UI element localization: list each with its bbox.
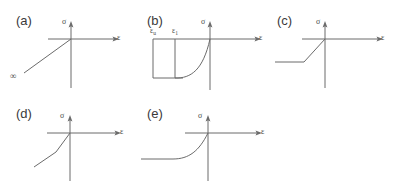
panel-a-label: (a): [16, 14, 32, 27]
panel-b-tick-eu-subscript: u: [153, 30, 156, 36]
panel-a-sigma-label: σ: [62, 18, 66, 26]
panel-c-label: (c): [277, 14, 292, 27]
panel-d-sigma-label: σ: [60, 112, 64, 120]
panel-a-curve: [24, 39, 71, 73]
panel-b: (b) σ ε εu ε1: [133, 0, 278, 95]
panel-b-tick-e1: ε1: [172, 27, 178, 35]
panel-e-epsilon-label: ε: [261, 128, 264, 136]
panel-b-rising-curve: [175, 39, 210, 78]
panel-c-epsilon-label: ε: [381, 34, 384, 42]
panel-a-infinity-label: ∞: [10, 72, 16, 81]
panel-d-curve: [34, 133, 70, 167]
figure-root: (a) σ ε ∞ (b) σ ε εu ε1: [0, 0, 402, 186]
panel-d: (d) σ ε: [0, 95, 145, 186]
panel-b-tick-e1-subscript: 1: [175, 30, 178, 36]
panel-c: (c) σ ε: [268, 0, 402, 95]
panel-e-curve: [141, 133, 208, 159]
panel-b-epsilon-label: ε: [259, 34, 262, 42]
panel-a: (a) σ ε ∞: [0, 0, 140, 95]
panel-e-sigma-label: σ: [198, 112, 202, 120]
panel-a-epsilon-label: ε: [117, 34, 120, 42]
panel-c-sigma-label: σ: [316, 18, 320, 26]
panel-d-label: (d): [16, 107, 32, 120]
panel-b-sigma-label: σ: [201, 18, 205, 26]
panel-d-epsilon-label: ε: [120, 128, 123, 136]
panel-b-tick-eu: εu: [150, 27, 156, 35]
panel-e: (e) σ ε: [133, 95, 293, 186]
panel-e-label: (e): [147, 107, 163, 120]
panel-c-curve: [275, 39, 325, 62]
